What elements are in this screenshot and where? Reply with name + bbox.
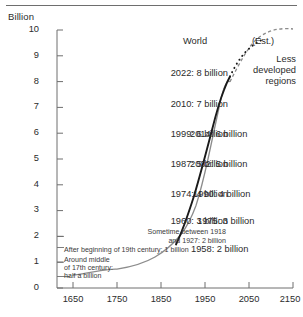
- y-tick-label-7: 7: [21, 101, 39, 111]
- series-label-estimate: (Est.): [252, 36, 274, 47]
- series-label-less-developed-line1: Less: [222, 54, 296, 65]
- less-developed-annotation-1990: 1990: 4 billion: [193, 189, 250, 199]
- y-tick-label-8: 8: [21, 76, 39, 86]
- y-tick-label-5: 5: [21, 153, 39, 163]
- x-tick-label-1950: 1950: [183, 294, 227, 304]
- y-tick-label-9: 9: [21, 50, 39, 60]
- less-developed-annotation-1975: 1975: 3 billion: [197, 216, 254, 226]
- world-annotation-17th-century-line3: half a billion: [64, 273, 101, 281]
- x-tick-label-1850: 1850: [139, 294, 183, 304]
- x-tick-label-1650: 1650: [51, 294, 95, 304]
- x-tick-label-2050: 2050: [227, 294, 271, 304]
- world-annotation-19th-century: After beginning of 19th century: 1 billi…: [64, 247, 189, 255]
- world-annotation-2010: 2010: 7 billion: [108, 99, 228, 109]
- x-axis-ticks: [73, 282, 293, 288]
- world-annotation-2022: 2022: 8 billion: [108, 68, 228, 78]
- less-developed-annotation-1958: 1958: 2 billion: [191, 244, 248, 254]
- series-label-world: World: [183, 36, 207, 47]
- y-tick-label-4: 4: [21, 179, 39, 189]
- y-tick-label-1: 1: [21, 256, 39, 266]
- less-developed-annotation-2002: 2002: 5 billion: [190, 159, 247, 169]
- y-tick-label-3: 3: [21, 204, 39, 214]
- x-tick-label-2150: 2150: [268, 294, 303, 304]
- population-growth-chart: Billion: [0, 0, 303, 317]
- x-tick-label-1750: 1750: [95, 294, 139, 304]
- series-label-less-developed-line3: regions: [222, 76, 296, 87]
- y-tick-label-0: 0: [21, 282, 39, 292]
- y-axis-ticks: [57, 30, 63, 288]
- y-tick-label-6: 6: [21, 127, 39, 137]
- series-label-less-developed-line2: developed: [222, 65, 296, 76]
- y-tick-label-2: 2: [21, 230, 39, 240]
- y-tick-label-10: 10: [21, 24, 39, 34]
- world-annotation-1918-1927-line1: Sometime between 1918: [106, 229, 226, 237]
- less-developed-annotation-2014: 2014: 6 billion: [190, 129, 247, 139]
